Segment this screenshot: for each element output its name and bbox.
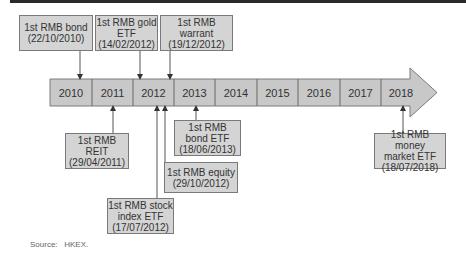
event-rmb-money-market-etf: 1st RMB money market ETF (18/07/2018) — [374, 133, 446, 169]
year-2017: 2017 — [340, 79, 381, 106]
event-date: (22/10/2010) — [20, 33, 92, 44]
event-title-2: warrant — [161, 28, 232, 39]
event-title: 1st RMB — [175, 122, 240, 133]
year-2011: 2011 — [92, 79, 133, 106]
event-title-2: ETF — [96, 28, 157, 39]
event-date: (29/04/2011) — [66, 157, 128, 168]
event-title: 1st RMB equity — [165, 167, 237, 178]
event-date: (18/06/2013) — [175, 144, 240, 155]
event-title: 1st RMB bond — [20, 22, 92, 33]
year-2018: 2018 — [381, 79, 421, 106]
event-title-2: market ETF — [375, 151, 445, 162]
event-title-2: REIT — [66, 146, 128, 157]
event-title: 1st RMB money — [375, 129, 445, 151]
source-note: Source: HKEX. — [30, 240, 88, 249]
event-date: (14/02/2012) — [96, 39, 157, 50]
year-2016: 2016 — [298, 79, 340, 106]
event-date: (18/07/2018) — [375, 162, 445, 173]
year-2015: 2015 — [257, 79, 298, 106]
source-label: Source: — [30, 240, 58, 249]
event-title: 1st RMB stock — [108, 200, 173, 211]
event-title-2: bond ETF — [175, 133, 240, 144]
event-rmb-bond-etf: 1st RMB bond ETF (18/06/2013) — [174, 120, 241, 156]
event-date: (19/12/2012) — [161, 39, 232, 50]
year-2010: 2010 — [50, 79, 92, 106]
event-rmb-gold-etf: 1st RMB gold ETF (14/02/2012) — [95, 15, 158, 51]
event-title: 1st RMB — [66, 135, 128, 146]
source-value: HKEX. — [64, 240, 88, 249]
event-rmb-warrant: 1st RMB warrant (19/12/2012) — [160, 15, 233, 51]
event-rmb-reit: 1st RMB REIT (29/04/2011) — [65, 133, 129, 169]
year-2013: 2013 — [174, 79, 215, 106]
event-rmb-bond: 1st RMB bond (22/10/2010) — [19, 15, 93, 51]
event-rmb-stock-index-etf: 1st RMB stock index ETF (17/07/2012) — [107, 198, 174, 234]
event-title-2: index ETF — [108, 211, 173, 222]
year-2012: 2012 — [133, 79, 174, 106]
event-title: 1st RMB gold — [96, 17, 157, 28]
year-2014: 2014 — [215, 79, 257, 106]
event-date: (17/07/2012) — [108, 222, 173, 233]
event-rmb-equity: 1st RMB equity (29/10/2012) — [164, 162, 238, 193]
event-date: (29/10/2012) — [165, 178, 237, 189]
event-title: 1st RMB — [161, 17, 232, 28]
